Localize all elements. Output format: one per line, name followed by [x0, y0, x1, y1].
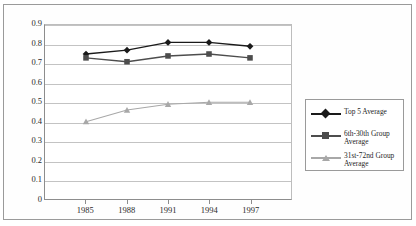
data-point-marker	[124, 47, 131, 54]
legend-item-label: 6th-30th Group Average	[341, 130, 403, 147]
legend-marker-icon	[311, 131, 341, 141]
x-axis-tick	[85, 200, 86, 204]
data-point-marker	[124, 59, 130, 65]
y-axis: 0.90.80.70.60.50.40.30.20.10	[8, 24, 42, 200]
plot-area	[44, 24, 292, 200]
legend-item: 6th-30th Group Average	[311, 130, 403, 147]
legend-item-label: Top 5 Average	[341, 108, 387, 116]
y-axis-tick-label: 0.1	[12, 175, 42, 184]
data-point-marker	[247, 55, 253, 61]
data-point-marker	[83, 55, 89, 61]
data-point-marker	[165, 39, 172, 46]
x-axis-tick-label: 1991	[146, 205, 190, 215]
x-axis-tick-label: 1988	[105, 205, 149, 215]
data-point-marker	[165, 53, 171, 59]
x-axis: 19851988199119941997	[44, 200, 292, 222]
legend-item: Top 5 Average	[311, 108, 403, 119]
series-lines	[45, 25, 291, 199]
y-axis-tick-label: 0.3	[12, 136, 42, 145]
y-axis-tick-label: 0.7	[12, 58, 42, 67]
data-point-marker	[247, 43, 254, 50]
x-axis-tick	[209, 200, 210, 204]
x-axis-tick	[168, 200, 169, 204]
y-axis-tick-label: 0	[12, 195, 42, 204]
chart-figure: 0.90.80.70.60.50.40.30.20.10 19851988199…	[0, 0, 416, 226]
x-axis-tick	[251, 200, 252, 204]
legend-item-label: 31st-72nd Group Average	[341, 152, 403, 169]
x-axis-tick	[127, 200, 128, 204]
legend-marker-icon	[311, 153, 341, 163]
x-axis-tick-label: 1997	[229, 205, 273, 215]
y-axis-tick-label: 0.4	[12, 117, 42, 126]
y-axis-tick-label: 0.5	[12, 97, 42, 106]
y-axis-tick-label: 0.9	[12, 19, 42, 28]
data-point-marker	[206, 51, 212, 57]
data-point-marker	[206, 39, 213, 46]
chart-legend: Top 5 Average6th-30th Group Average31st-…	[305, 99, 404, 171]
x-axis-tick-label: 1994	[187, 205, 231, 215]
y-axis-tick-label: 0.6	[12, 78, 42, 87]
y-axis-tick-label: 0.2	[12, 156, 42, 165]
x-axis-tick-label: 1985	[63, 205, 107, 215]
y-axis-tick-label: 0.8	[12, 39, 42, 48]
legend-item: 31st-72nd Group Average	[311, 152, 403, 169]
legend-marker-icon	[311, 109, 341, 119]
